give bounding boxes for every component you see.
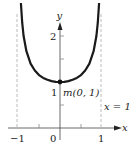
- x-axis-label: x: [122, 122, 128, 133]
- y-tick-label-1: 1: [51, 87, 57, 98]
- x-axis-arrow-icon: [114, 126, 122, 131]
- y-axis-label: y: [56, 10, 63, 21]
- point-marker: [58, 80, 63, 85]
- asymptote-label: x = 1: [104, 101, 131, 112]
- y-axis-arrow-icon: [58, 22, 63, 30]
- chart: y x 2 1 −1 0 1 m(0, 1) x = 1: [0, 0, 133, 150]
- point-label: m(0, 1): [63, 87, 99, 98]
- x-tick-label-1: 1: [98, 133, 104, 144]
- x-tick-label-neg1: −1: [10, 133, 25, 144]
- y-tick-label-2: 2: [50, 31, 56, 42]
- x-tick-label-0: 0: [50, 133, 56, 144]
